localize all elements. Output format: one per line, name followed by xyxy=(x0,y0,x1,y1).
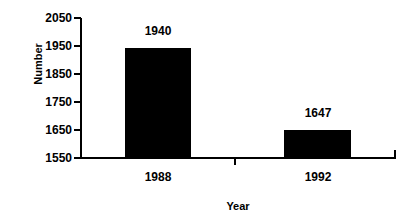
y-tick-mark-1950 xyxy=(74,45,81,47)
x-axis-end-tick xyxy=(394,150,396,158)
bar-1988 xyxy=(125,48,191,158)
bar-value-label-1992: 1647 xyxy=(278,106,358,120)
y-tick-1950: 1950 xyxy=(28,40,72,52)
y-tick-label: 1850 xyxy=(32,68,72,80)
y-tick-1750: 1750 xyxy=(28,96,72,108)
y-axis-line xyxy=(80,18,82,159)
x-tick-label-1992: 1992 xyxy=(278,170,358,184)
x-axis-title: Year xyxy=(80,200,396,212)
y-tick-2050: 2050 xyxy=(28,12,72,24)
y-tick-mark-1850 xyxy=(74,73,81,75)
y-tick-mark-1650 xyxy=(74,129,81,131)
y-tick-1850: 1850 xyxy=(28,68,72,80)
y-tick-1650: 1650 xyxy=(28,124,72,136)
y-tick-1550: 1550 xyxy=(28,152,72,164)
y-tick-label: 1550 xyxy=(32,152,72,164)
bar-chart: Number 1550 1650 1750 1850 1950 2050 194… xyxy=(0,0,415,224)
y-tick-label: 1750 xyxy=(32,96,72,108)
x-tick-label-1988: 1988 xyxy=(118,170,198,184)
y-tick-label: 1950 xyxy=(32,40,72,52)
x-tick-mark-center xyxy=(234,159,236,165)
y-tick-label: 2050 xyxy=(32,12,72,24)
bar-1992 xyxy=(284,130,351,158)
bar-value-label-1988: 1940 xyxy=(118,24,198,38)
y-tick-mark-1750 xyxy=(74,101,81,103)
y-tick-mark-2050 xyxy=(74,17,81,19)
y-tick-label: 1650 xyxy=(32,124,72,136)
x-axis-line xyxy=(80,157,396,159)
